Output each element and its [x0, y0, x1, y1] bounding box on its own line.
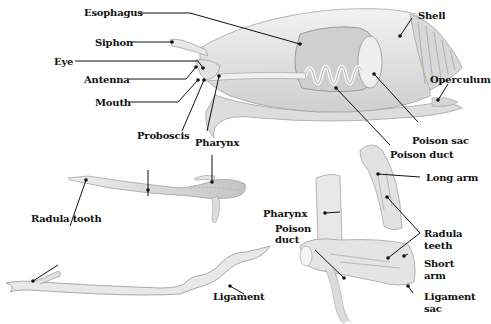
label-eye: Eye	[54, 56, 73, 67]
label-ligament: Ligament	[213, 291, 265, 302]
label-radula-tooth: Radula tooth	[31, 213, 102, 224]
label-poison-duct-bottom-line2: duct	[275, 234, 299, 245]
label-radula-teeth-line1: Radula	[424, 228, 462, 239]
label-poison-duct-bottom-line1: Poison	[275, 223, 311, 234]
label-esophagus: Esophagus	[84, 7, 143, 18]
label-poison-sac: Poison sac	[412, 135, 469, 146]
label-pharynx-bottom: Pharynx	[263, 208, 307, 219]
label-ligament-sac-line1: Ligament	[424, 291, 476, 302]
label-pharynx-top: Pharynx	[195, 137, 239, 148]
radula-sac-illustration	[300, 145, 415, 322]
snail-body-illustration	[170, 9, 462, 138]
label-short-arm-line1: Short	[424, 258, 454, 269]
label-operculum: Operculum	[430, 74, 491, 85]
label-short-arm-line2: arm	[424, 270, 446, 281]
label-mouth: Mouth	[95, 97, 131, 108]
label-ligament-sac-line2: sac	[424, 303, 442, 314]
label-radula-teeth-line2: teeth	[424, 240, 452, 251]
label-siphon: Siphon	[95, 37, 133, 48]
label-poison-duct-top: Poison duct	[390, 149, 454, 160]
label-proboscis: Proboscis	[137, 130, 189, 141]
label-antenna: Antenna	[84, 74, 130, 85]
label-long-arm: Long arm	[426, 172, 478, 183]
label-shell: Shell	[418, 10, 445, 21]
